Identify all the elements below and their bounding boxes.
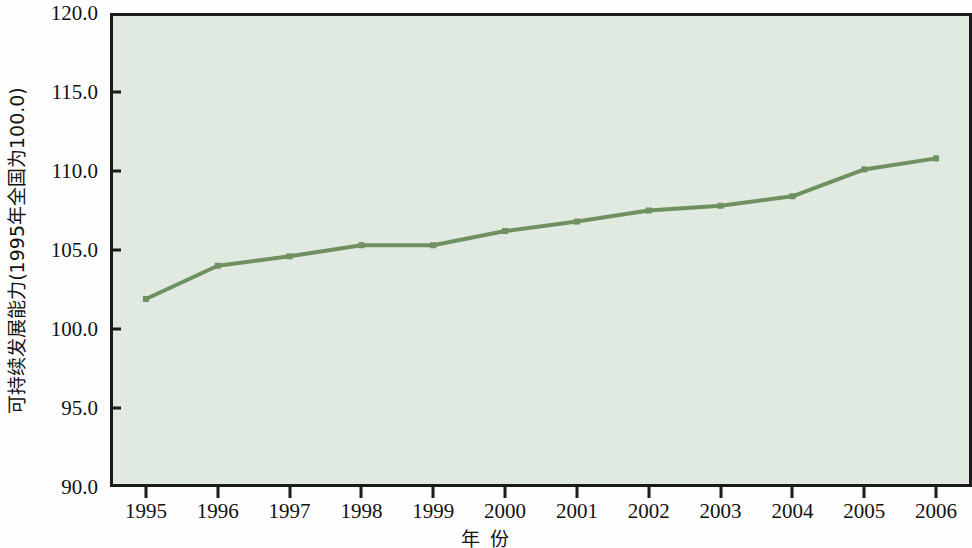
series-markers (143, 155, 939, 302)
y-axis-tick-label: 115.0 (24, 82, 98, 103)
y-axis-tick-label: 90.0 (24, 477, 98, 498)
x-axis-tickmark (647, 487, 650, 498)
x-axis-tick-label: 2004 (771, 498, 813, 524)
x-axis-tickmark (216, 487, 219, 498)
x-axis-tickmark (935, 487, 938, 498)
series-line-chart (113, 16, 969, 484)
plot-area (110, 13, 972, 487)
data-point-marker (143, 296, 149, 302)
data-point-marker (574, 219, 580, 225)
x-axis-tick-label: 2005 (843, 498, 885, 524)
y-axis-tickmark (110, 407, 121, 410)
data-point-marker (502, 228, 508, 234)
y-axis-tick-labels: 120.0115.0110.0105.0100.095.090.0 (24, 0, 98, 548)
data-point-marker (646, 208, 652, 214)
data-point-marker (861, 166, 867, 172)
x-axis-tickmark (360, 487, 363, 498)
data-point-marker (933, 155, 939, 161)
y-axis-tick-label: 95.0 (24, 398, 98, 419)
x-axis-tick-label: 2001 (556, 498, 598, 524)
x-axis-tick-label: 1997 (269, 498, 311, 524)
y-axis-tick-label: 120.0 (24, 3, 98, 24)
y-axis-tickmark (110, 91, 121, 94)
data-point-marker (287, 253, 293, 259)
x-axis-tick-label: 2002 (628, 498, 670, 524)
x-axis-tick-label: 1995 (125, 498, 167, 524)
y-axis-tick-label: 105.0 (24, 240, 98, 261)
x-axis-tick-label: 2003 (700, 498, 742, 524)
x-axis-tickmark (432, 487, 435, 498)
data-point-marker (789, 193, 795, 199)
x-axis-tick-label: 1999 (412, 498, 454, 524)
series-line (146, 158, 936, 299)
x-axis-tickmark (288, 487, 291, 498)
y-axis-tickmark (110, 249, 121, 252)
data-point-marker (430, 242, 436, 248)
data-point-marker (718, 203, 724, 209)
x-axis-tickmark (144, 487, 147, 498)
x-axis-title: 年 份 (0, 524, 972, 548)
x-axis-tick-label: 2006 (915, 498, 957, 524)
x-axis-tickmark (791, 487, 794, 498)
y-axis-tick-label: 110.0 (24, 161, 98, 182)
data-point-marker (215, 263, 221, 269)
x-axis-tick-label: 1996 (197, 498, 239, 524)
chart-container: 可持续发展能力(1995年全国为100.0) 120.0115.0110.010… (0, 0, 972, 548)
x-axis-tick-label: 1998 (340, 498, 382, 524)
x-axis-tickmark (719, 487, 722, 498)
data-point-marker (358, 242, 364, 248)
x-axis-tickmark (504, 487, 507, 498)
x-axis-tickmark (575, 487, 578, 498)
x-axis-tickmark (863, 487, 866, 498)
y-axis-tickmark (110, 170, 121, 173)
y-axis-tick-label: 100.0 (24, 319, 98, 340)
x-axis-tick-label: 2000 (484, 498, 526, 524)
y-axis-tickmark (110, 328, 121, 331)
